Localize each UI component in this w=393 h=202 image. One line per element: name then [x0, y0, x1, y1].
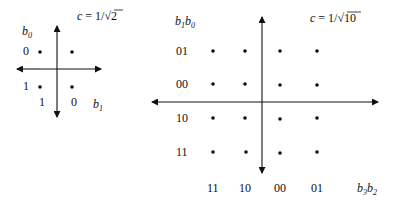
point-dot	[70, 85, 74, 89]
right-row-label: 00	[176, 77, 188, 91]
left-horizontal-axis-label: b1	[93, 97, 103, 113]
right-horizontal-axis-label: b3b2	[357, 181, 377, 197]
constellation-diagrams: b0 0 1 1 0 b1 c = 1/√2 b1b0 01 00 10 11 …	[0, 0, 393, 202]
right-col-label: 00	[274, 181, 286, 195]
point-dot	[38, 50, 42, 54]
svg-text:c = 1/√10: c = 1/√10	[310, 11, 356, 25]
left-constellation: b0 0 1 1 0 b1 c = 1/√2	[17, 9, 123, 117]
right-row-label: 10	[176, 111, 188, 125]
left-row-label: 0	[23, 44, 29, 58]
right-vertical-axis-label: b1b0	[175, 14, 195, 30]
left-row-label: 1	[23, 79, 29, 93]
point-dot	[70, 50, 74, 54]
left-col-label: 1	[39, 95, 45, 109]
right-col-label: 11	[207, 181, 219, 195]
left-vertical-axis-label: b0	[22, 24, 32, 40]
right-constellation: b1b0 01 00 10 11 11 10 00 01 b3b2 c = 1/…	[152, 11, 378, 197]
left-col-label: 0	[71, 95, 77, 109]
right-row-label: 11	[176, 145, 188, 159]
left-scale-formula: c = 1/√2	[77, 9, 123, 23]
right-scale-formula: c = 1/√10	[310, 11, 361, 25]
right-row-label: 01	[176, 44, 188, 58]
svg-text:c = 1/√2: c = 1/√2	[77, 9, 117, 23]
right-col-label: 10	[239, 181, 251, 195]
point-dot	[38, 85, 42, 89]
right-col-label: 01	[311, 181, 323, 195]
